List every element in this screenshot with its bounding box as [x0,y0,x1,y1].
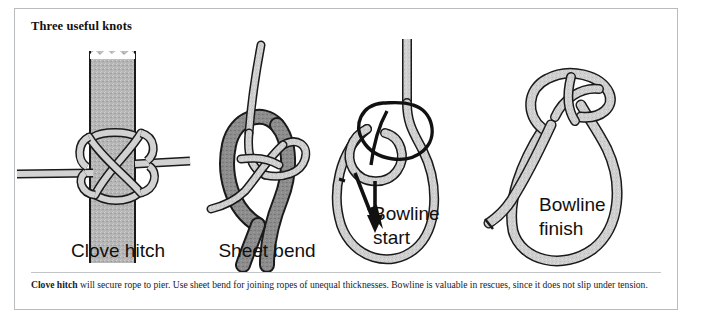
knot-label-bowline-finish-line1: Bowline [539,194,606,215]
knot-label-bowline-start-line1: Bowline [373,203,440,224]
caption-divider [31,272,661,273]
knot-illustration-sheet-bend: Sheet bend [211,45,316,265]
knot-label-bowline-start-line2: start [373,227,411,248]
knot-label-clove-hitch: Clove hitch [71,240,165,261]
caption-lead-term: Clove hitch [31,279,78,290]
knot-label-sheet-bend: Sheet bend [218,240,315,261]
page-title: Three useful knots [31,19,132,34]
knot-illustration-clove-hitch: Clove hitch [17,49,190,263]
knot-label-bowline-finish-line2: finish [539,218,583,239]
knot-illustrations: Clove hitch [15,33,677,279]
figure-page: Three useful knots [0,0,702,314]
knot-illustration-bowline-start: Bowline start [337,39,440,259]
knot-illustration-bowline-finish: Bowline finish [485,73,617,261]
figure-panel: Three useful knots [14,8,678,310]
figure-caption: Clove hitch will secure rope to pier. Us… [31,279,665,292]
caption-body: will secure rope to pier. Use sheet bend… [78,279,648,290]
